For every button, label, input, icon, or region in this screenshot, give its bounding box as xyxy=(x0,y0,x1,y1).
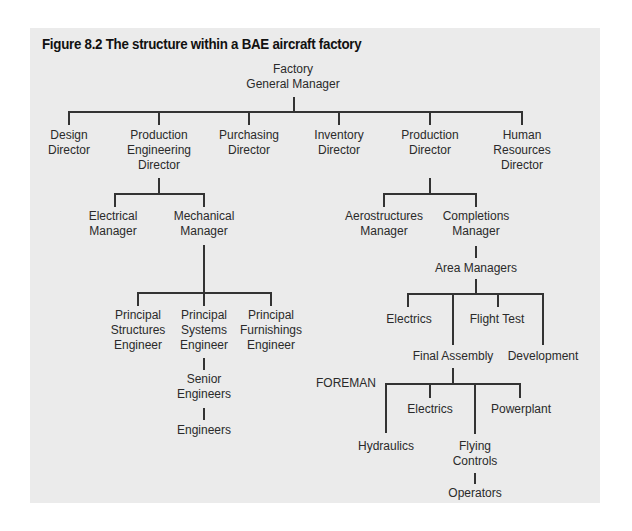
node-line: Principal xyxy=(180,308,228,323)
node-line: Controls xyxy=(453,454,498,469)
node-line: Hydraulics xyxy=(358,439,414,454)
node-line: Electrics xyxy=(407,402,452,417)
connector xyxy=(203,358,205,370)
node-line: Purchasing xyxy=(219,128,279,143)
connector xyxy=(521,111,523,125)
node-line: Director xyxy=(401,143,458,158)
connector xyxy=(203,193,205,207)
node-line: Operators xyxy=(448,486,501,501)
node-line: Engineers xyxy=(177,387,231,402)
node-line: Area Managers xyxy=(435,261,517,276)
connector xyxy=(203,408,205,420)
connector xyxy=(429,178,431,193)
connector xyxy=(158,111,160,125)
node-line: Electrical xyxy=(89,209,138,224)
connector xyxy=(385,383,387,433)
node-line: Structures xyxy=(111,323,166,338)
connector xyxy=(114,193,116,207)
node-line: Engineer xyxy=(111,338,166,353)
connector xyxy=(475,193,477,207)
node-area-managers: Area Managers xyxy=(435,261,517,276)
node-hydraulics: Hydraulics xyxy=(358,439,414,454)
connector xyxy=(407,293,409,307)
connector xyxy=(203,245,205,292)
node-electrical-manager: Electrical Manager xyxy=(89,209,138,239)
connector xyxy=(474,383,476,434)
node-line: Final Assembly xyxy=(413,349,494,364)
connector xyxy=(114,193,204,195)
node-line: Aerostructures xyxy=(345,209,423,224)
node-principal-systems-engineer: Principal Systems Engineer xyxy=(180,308,228,353)
connector xyxy=(429,383,431,398)
node-line: Electrics xyxy=(386,312,431,327)
node-line: Director xyxy=(493,158,550,173)
node-line: Flight Test xyxy=(470,312,524,327)
connector xyxy=(383,193,476,195)
node-line: Factory xyxy=(246,62,339,77)
node-production-engineering-director: Production Engineering Director xyxy=(127,128,191,173)
connector xyxy=(497,293,499,307)
node-line: Engineer xyxy=(240,338,302,353)
node-line: Manager xyxy=(443,224,510,239)
node-line: Director xyxy=(48,143,90,158)
node-line: Design xyxy=(48,128,90,143)
node-area-electrics: Electrics xyxy=(386,312,431,327)
connector xyxy=(519,383,521,398)
node-line: Furnishings xyxy=(240,323,302,338)
node-line: Powerplant xyxy=(491,402,551,417)
node-line: Engineers xyxy=(177,423,231,438)
node-line: Manager xyxy=(345,224,423,239)
connector xyxy=(385,383,520,385)
connector xyxy=(203,292,205,306)
connector xyxy=(137,292,139,306)
node-principal-furnishings-engineer: Principal Furnishings Engineer xyxy=(240,308,302,353)
connector xyxy=(383,193,385,207)
connector xyxy=(338,111,340,125)
node-line: Director xyxy=(127,158,191,173)
node-line: Human xyxy=(493,128,550,143)
node-engineers: Engineers xyxy=(177,423,231,438)
node-line: Engineering xyxy=(127,143,191,158)
node-principal-structures-engineer: Principal Structures Engineer xyxy=(111,308,166,353)
node-final-assembly: Final Assembly xyxy=(413,349,494,364)
node-foreman-electrics: Electrics xyxy=(407,402,452,417)
node-line: Engineer xyxy=(180,338,228,353)
node-line: Manager xyxy=(89,224,138,239)
node-line: Principal xyxy=(111,308,166,323)
node-mechanical-manager: Mechanical Manager xyxy=(174,209,235,239)
connector xyxy=(475,246,477,258)
node-line: Inventory xyxy=(314,128,363,143)
node-line: Manager xyxy=(174,224,235,239)
node-flight-test: Flight Test xyxy=(470,312,524,327)
node-purchasing-director: Purchasing Director xyxy=(219,128,279,158)
connector xyxy=(270,292,272,306)
node-production-director: Production Director xyxy=(401,128,458,158)
node-line: Flying xyxy=(453,439,498,454)
node-flying-controls: Flying Controls xyxy=(453,439,498,469)
node-line: Senior xyxy=(177,372,231,387)
node-senior-engineers: Senior Engineers xyxy=(177,372,231,402)
node-line: Production xyxy=(401,128,458,143)
node-line: Resources xyxy=(493,143,550,158)
connector xyxy=(248,111,250,125)
connector xyxy=(475,279,477,293)
node-line: Systems xyxy=(180,323,228,338)
connector xyxy=(158,178,160,193)
node-inventory-director: Inventory Director xyxy=(314,128,363,158)
connector xyxy=(68,111,70,125)
node-line: Development xyxy=(508,349,579,364)
figure-title: Figure 8.2 The structure within a BAE ai… xyxy=(42,36,361,52)
node-development: Development xyxy=(508,349,579,364)
connector xyxy=(429,111,431,125)
connector xyxy=(542,293,544,345)
node-aerostructures-manager: Aerostructures Manager xyxy=(345,209,423,239)
node-line: General Manager xyxy=(246,77,339,92)
node-powerplant: Powerplant xyxy=(491,402,551,417)
node-line: Director xyxy=(219,143,279,158)
node-line: Completions xyxy=(443,209,510,224)
connector xyxy=(407,293,543,295)
connector xyxy=(68,111,522,113)
node-line: Principal xyxy=(240,308,302,323)
node-human-resources-director: Human Resources Director xyxy=(493,128,550,173)
node-factory-general-manager: Factory General Manager xyxy=(246,62,339,92)
